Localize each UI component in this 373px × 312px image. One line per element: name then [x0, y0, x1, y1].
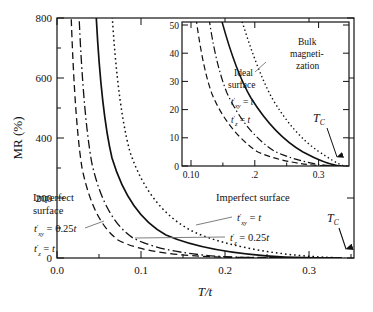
inset-ytick-0: 0	[174, 162, 179, 172]
main-xtick-2: 0.2	[218, 264, 232, 276]
inset-ytick-40: 40	[170, 49, 180, 59]
inset-bulk-line2: magneti-	[290, 49, 324, 59]
inset-ytick-50: 50	[170, 21, 180, 31]
right-annot-line1: Imperfect surface	[216, 192, 290, 203]
main-ytick-400: 400	[36, 132, 53, 144]
inset-bulk-line3: zation	[296, 61, 319, 71]
main-xtick-1: 0.1	[134, 264, 148, 276]
inset-ytick-10: 10	[170, 133, 180, 143]
main-y-axis-title: MR (%)	[10, 117, 25, 160]
main-x-axis-title: T/t	[198, 284, 213, 299]
inset-ideal-line2: surface	[228, 80, 255, 90]
main-xtick-3: 0.3	[302, 264, 316, 276]
left-annot-line2: surface	[33, 205, 64, 216]
left-annot-line1: Imperfect	[33, 192, 74, 203]
figure-magnetoresistance-plot: 800 600 400 200 0 0.0 0.1 0.2 0.3 MR (%)…	[0, 0, 373, 312]
inset-ytick-20: 20	[170, 105, 180, 115]
plot-svg: 800 600 400 200 0 0.0 0.1 0.2 0.3 MR (%)…	[0, 0, 373, 312]
inset-xtick-02: .2	[251, 170, 258, 180]
main-xtick-0: 0.0	[50, 264, 64, 276]
inset-bulk-line1: Bulk	[298, 37, 317, 47]
inset-ideal-line1: Ideal	[234, 68, 253, 78]
inset-xtick-010: 0.10	[183, 170, 200, 180]
main-ytick-600: 600	[36, 72, 53, 84]
main-ytick-800: 800	[36, 12, 53, 24]
inset-ytick-30: 30	[170, 77, 180, 87]
inset-xtick-03: 0.3	[313, 170, 325, 180]
